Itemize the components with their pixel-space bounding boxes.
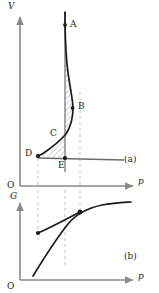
origin-label-top: O <box>7 181 14 190</box>
physics-figure: V A B C D E (a) p O G (b) p O <box>0 0 159 293</box>
panel-tag-b: (b) <box>124 252 137 261</box>
point-marker-D <box>36 154 40 158</box>
point-label-E: E <box>58 161 65 170</box>
axis-label-V: V <box>8 2 15 11</box>
origin-label-bottom: O <box>7 282 14 291</box>
panel-tag-a: (a) <box>124 155 136 164</box>
g-branch-1 <box>38 212 80 233</box>
point-label-B: B <box>78 102 85 111</box>
axis-label-p-bottom: p <box>138 272 144 281</box>
tie-line-de <box>38 158 124 160</box>
point-label-D: D <box>25 149 32 158</box>
point-marker-B <box>71 106 75 110</box>
g-branch-1-start-marker <box>36 231 40 235</box>
point-label-A: A <box>70 20 77 29</box>
point-marker-A <box>63 23 67 27</box>
axis-label-p-top: p <box>138 177 144 186</box>
panel-a <box>20 12 133 186</box>
point-label-C: C <box>50 129 57 138</box>
axis-label-G: G <box>10 192 17 201</box>
panel-b <box>20 190 133 280</box>
g-branch-2 <box>33 202 131 276</box>
figure-canvas <box>0 0 159 293</box>
